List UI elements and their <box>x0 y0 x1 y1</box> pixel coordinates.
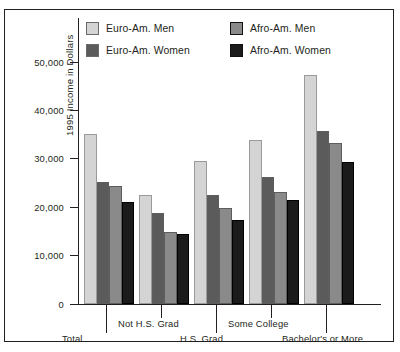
bar[interactable] <box>287 200 300 304</box>
bar[interactable] <box>249 140 262 304</box>
x-label-leader <box>216 305 217 333</box>
plot-area: 1995 Income in Dollars <box>78 18 378 304</box>
bar-group <box>249 140 299 304</box>
y-tick <box>70 304 78 305</box>
x-tick-label: Total <box>62 333 83 344</box>
x-label-leader <box>271 305 272 318</box>
bar[interactable] <box>262 177 275 304</box>
bar[interactable] <box>194 161 207 304</box>
bar[interactable] <box>164 232 177 304</box>
x-tick-label: Bachelor's or More <box>282 333 363 344</box>
bar[interactable] <box>329 143 342 304</box>
y-tick <box>70 255 78 256</box>
legend-swatch-afro-am-women <box>230 44 243 57</box>
bar[interactable] <box>274 192 287 304</box>
bar[interactable] <box>304 75 317 304</box>
x-tick-label: Some College <box>228 318 289 329</box>
y-tick-label: 0 <box>59 298 64 309</box>
x-label-leader <box>326 305 327 333</box>
legend-swatch-euro-am-men <box>86 22 99 35</box>
bar-group <box>194 161 244 304</box>
y-tick-label: 40,000 <box>34 104 64 115</box>
x-label-leader <box>161 305 162 318</box>
bar[interactable] <box>152 213 165 304</box>
y-tick-label: 50,000 <box>34 56 64 67</box>
bar[interactable] <box>219 208 232 304</box>
bar[interactable] <box>177 234 190 304</box>
y-tick <box>70 207 78 208</box>
legend-label-euro-am-men: Euro-Am. Men <box>106 23 174 34</box>
bar[interactable] <box>109 186 122 304</box>
bar-group <box>84 134 134 304</box>
legend-label-afro-am-women: Afro-Am. Women <box>250 45 331 56</box>
bar[interactable] <box>342 162 355 304</box>
y-tick-label: 10,000 <box>34 250 64 261</box>
y-axis-title: 1995 Income in Dollars <box>64 0 75 136</box>
bar-group <box>139 195 189 304</box>
legend-label-euro-am-women: Euro-Am. Women <box>106 45 190 56</box>
legend-swatch-euro-am-women <box>86 44 99 57</box>
legend-swatch-afro-am-men <box>230 22 243 35</box>
bar[interactable] <box>122 202 135 304</box>
x-tick-label: H.S. Grad <box>180 333 223 344</box>
bar[interactable] <box>84 134 97 304</box>
bar[interactable] <box>207 195 220 304</box>
x-label-leader <box>106 305 107 333</box>
y-tick <box>70 158 78 159</box>
legend-item-euro-am-women: Euro-Am. Women <box>86 44 190 57</box>
legend-item-afro-am-men: Afro-Am. Men <box>230 22 315 35</box>
bar[interactable] <box>317 131 330 304</box>
x-tick-label: Not H.S. Grad <box>118 318 179 329</box>
legend-label-afro-am-men: Afro-Am. Men <box>250 23 315 34</box>
chart-page: 010,00020,00030,00040,00050,000 1995 Inc… <box>0 0 400 352</box>
y-tick-label: 20,000 <box>34 201 64 212</box>
y-tick-label: 30,000 <box>34 153 64 164</box>
bar[interactable] <box>232 220 245 304</box>
bar-group <box>304 75 354 304</box>
bar[interactable] <box>139 195 152 304</box>
legend-item-afro-am-women: Afro-Am. Women <box>230 44 331 57</box>
bar[interactable] <box>97 182 110 304</box>
legend-item-euro-am-men: Euro-Am. Men <box>86 22 174 35</box>
